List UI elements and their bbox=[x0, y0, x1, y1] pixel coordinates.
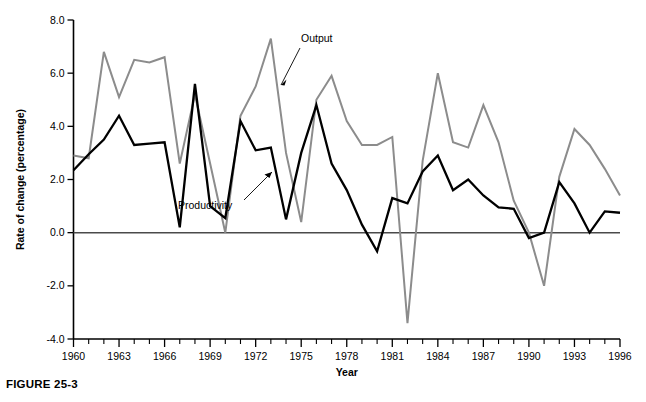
x-axis-tick-label: 1984 bbox=[426, 350, 450, 362]
line-chart: 8.06.04.02.00.0-2.0-4.019601963196619691… bbox=[0, 0, 646, 402]
figure-root: 8.06.04.02.00.0-2.0-4.019601963196619691… bbox=[0, 0, 646, 402]
x-axis-tick-label: 1975 bbox=[290, 350, 314, 362]
series-line-productivity bbox=[74, 84, 621, 251]
annotation-label-productivity: Productivity bbox=[178, 199, 233, 211]
x-axis-tick-label: 1990 bbox=[517, 350, 541, 362]
x-axis-tick-label: 1972 bbox=[244, 350, 268, 362]
x-axis-tick-label: 1966 bbox=[153, 350, 177, 362]
x-axis-tick-label: 1981 bbox=[381, 350, 405, 362]
y-axis-title: Rate of change (percentage) bbox=[14, 109, 26, 250]
x-axis-tick-label: 1960 bbox=[62, 350, 86, 362]
series-line-output bbox=[74, 39, 621, 323]
x-axis-tick-label: 1978 bbox=[335, 350, 359, 362]
y-axis-tick-label: -4.0 bbox=[46, 333, 64, 345]
figure-caption: FIGURE 25-3 bbox=[6, 378, 78, 390]
y-axis-tick-label: 0.0 bbox=[50, 226, 65, 238]
x-axis-tick-label: 1963 bbox=[107, 350, 131, 362]
y-axis-tick-label: 6.0 bbox=[50, 67, 65, 79]
annotation-leader-output bbox=[281, 48, 300, 85]
y-axis-tick-label: -2.0 bbox=[46, 279, 64, 291]
x-axis-title: Year bbox=[336, 366, 358, 378]
y-axis-tick-label: 2.0 bbox=[50, 173, 65, 185]
x-axis-tick-label: 1996 bbox=[608, 350, 632, 362]
x-axis-tick-label: 1993 bbox=[563, 350, 587, 362]
annotation-label-output: Output bbox=[301, 32, 333, 44]
y-axis-tick-label: 4.0 bbox=[50, 120, 65, 132]
y-axis-tick-label: 8.0 bbox=[50, 14, 65, 26]
x-axis-tick-label: 1987 bbox=[472, 350, 496, 362]
annotation-arrowhead-productivity bbox=[265, 172, 273, 178]
x-axis-tick-label: 1969 bbox=[198, 350, 222, 362]
